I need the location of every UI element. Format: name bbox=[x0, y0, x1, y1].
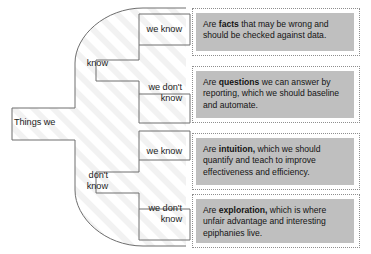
leaf-label-dont-know-we-dont-know: we don't know bbox=[116, 203, 182, 225]
card-intuition-prefix: Are bbox=[203, 144, 219, 154]
leaf-label-know-we-dont-know: we don't know bbox=[116, 82, 182, 104]
diagram-canvas: Things we know don't know we know we don… bbox=[0, 0, 371, 254]
card-intuition-keyword: intuition, bbox=[219, 144, 255, 154]
card-exploration: Are exploration, which is where unfair a… bbox=[196, 199, 354, 243]
card-questions-keyword: questions bbox=[219, 77, 260, 87]
card-facts: Are facts that may be wrong and should b… bbox=[196, 13, 354, 51]
leaf-label-dont-know-we-know: we know bbox=[116, 146, 182, 157]
root-label: Things we bbox=[14, 117, 88, 128]
card-exploration-prefix: Are bbox=[203, 205, 219, 215]
card-facts-keyword: facts bbox=[219, 19, 239, 29]
leaf-label-know-we-know: we know bbox=[116, 24, 182, 35]
branch-label-dont-know: don't know bbox=[56, 170, 108, 192]
branch-label-know: know bbox=[56, 58, 108, 69]
card-questions-prefix: Are bbox=[203, 77, 219, 87]
card-questions: Are questions we can answer by reporting… bbox=[196, 71, 354, 118]
card-exploration-keyword: exploration, bbox=[219, 205, 268, 215]
card-facts-prefix: Are bbox=[203, 19, 219, 29]
card-intuition: Are intuition, which we should quantify … bbox=[196, 138, 354, 185]
